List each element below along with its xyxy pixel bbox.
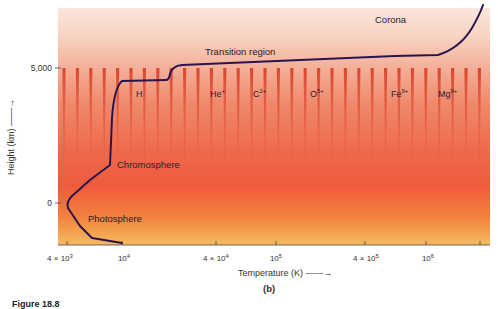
x-tick-1e4: 104: [118, 254, 130, 263]
label-transition-region: Transition region: [205, 46, 275, 57]
x-tick-1e6: 106: [422, 254, 434, 263]
x-tick-4e4: 4 × 104: [203, 254, 229, 263]
x-tick-4e5: 4 × 105: [353, 254, 379, 263]
ion-label-h: H: [136, 89, 143, 99]
ion-label-mg: Mg9+: [438, 89, 457, 99]
figure-caption: Figure 18.8: [12, 299, 60, 309]
y-axis-label: Height (km) ——→: [6, 99, 16, 175]
x-tick-4e3: 4 × 103: [47, 254, 73, 263]
x-axis-label: Temperature (K) ——→: [238, 268, 333, 278]
label-chromosphere: Chromosphere: [117, 159, 180, 170]
panel-label: (b): [263, 283, 275, 294]
ion-label-fe: Fe9+: [391, 89, 408, 99]
y-tick-0: 0: [12, 198, 52, 208]
ion-label-he: He+: [210, 89, 225, 99]
label-photosphere: Photosphere: [88, 213, 142, 224]
ion-label-c: C2+: [253, 89, 266, 99]
y-tick-5000: 5,000: [12, 63, 52, 73]
x-tick-1e5: 105: [270, 254, 282, 263]
label-corona: Corona: [375, 14, 406, 25]
ion-label-o: O5+: [310, 89, 324, 99]
